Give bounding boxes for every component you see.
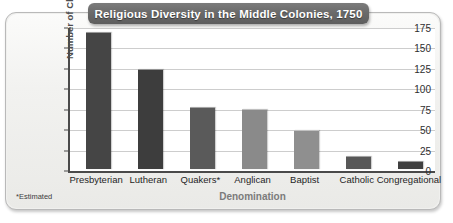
x-axis-tick-label: Presbyterian — [69, 174, 122, 185]
y-axis-tick-mark — [64, 171, 68, 172]
y-axis-tick-mark — [64, 130, 68, 131]
y-axis-tick-mark — [64, 89, 68, 90]
y-axis-title: Number of Churches — [64, 0, 75, 72]
y-axis-tick-label: 50 — [391, 125, 431, 136]
bars-layer — [72, 28, 435, 169]
x-axis-tick-label: Anglican — [234, 174, 270, 185]
y-axis-tick-label: 75 — [391, 104, 431, 115]
y-axis-tick-label: 25 — [391, 145, 431, 156]
y-axis-tick-label: 175 — [391, 23, 431, 34]
plot-area — [68, 28, 435, 173]
bar — [242, 109, 267, 169]
bar — [138, 69, 163, 169]
x-axis-tick-labels: PresbyterianLutheranQuakers*AnglicanBapt… — [68, 174, 437, 190]
y-axis-tick-mark — [64, 150, 68, 151]
plot-wrapper: 0255075100125150175 Number of Churches — [68, 28, 435, 173]
x-axis-title: Denomination — [68, 191, 437, 202]
bar — [190, 107, 215, 169]
x-axis-tick-label: Catholic — [340, 174, 374, 185]
x-axis-tick-label: Baptist — [290, 174, 319, 185]
y-axis-tick-label: 125 — [391, 63, 431, 74]
x-axis-tick-label: Congregational — [377, 174, 441, 185]
x-axis-tick-label: Lutheran — [129, 174, 167, 185]
chart-title: Religious Diversity in the Middle Coloni… — [95, 8, 363, 20]
bar — [86, 32, 111, 169]
bar — [346, 156, 371, 169]
bar — [294, 130, 319, 169]
x-axis-tick-label: Quakers* — [181, 174, 221, 185]
y-axis-tick-mark — [64, 109, 68, 110]
y-axis-tick-label: 100 — [391, 84, 431, 95]
chart-title-banner: Religious Diversity in the Middle Coloni… — [88, 3, 369, 24]
chart-figure: Religious Diversity in the Middle Coloni… — [0, 0, 453, 223]
y-axis-tick-label: 150 — [391, 43, 431, 54]
chart-footnote: *Estimated — [16, 192, 52, 201]
